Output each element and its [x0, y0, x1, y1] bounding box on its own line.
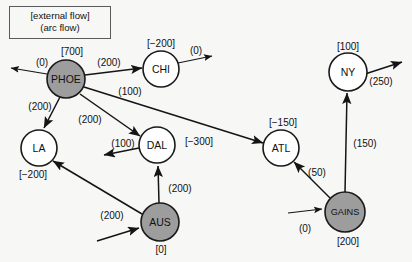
arc-flow-gains-ny: (150)	[353, 138, 376, 149]
arc-flow-external-gains: (0)	[299, 223, 311, 234]
external-flow-la: [−200]	[19, 169, 47, 180]
node-aus-label: AUS	[149, 216, 171, 228]
external-flow-ny: [100]	[337, 41, 359, 52]
node-ny-label: NY	[341, 66, 356, 78]
arc-aus-to-dal	[158, 166, 159, 203]
arc-flow-dal-la: (100)	[111, 138, 134, 149]
node-la-label: LA	[33, 142, 46, 154]
legend-external-flow: [external flow]	[12, 10, 108, 22]
arc-aus-to-la	[53, 161, 142, 214]
arc-phoe-to-chi	[85, 68, 142, 75]
node-chi-label: CHI	[152, 63, 170, 75]
arc-flow-phoe-atl: (100)	[118, 86, 141, 97]
network-flow-diagram: PHOE CHI LA DAL AUS ATL NY GAINS [700] […	[0, 0, 412, 262]
arc-flow-aus-dal: (200)	[168, 183, 191, 194]
external-flow-chi: [−200]	[147, 38, 175, 49]
arc-external-to-gains	[288, 209, 322, 213]
arc-flow-external-aus: (200)	[100, 210, 123, 221]
arc-flow-chi-external: (0)	[190, 45, 202, 56]
arc-flow-phoe-dal: (200)	[78, 114, 101, 125]
legend-arc-flow: (arc flow)	[12, 22, 108, 34]
node-dal-label: DAL	[147, 139, 168, 151]
external-flow-gains: [200]	[337, 236, 359, 247]
arc-gains-to-ny	[345, 93, 347, 192]
arc-external-to-aus	[97, 228, 139, 241]
arc-chi-to-external	[178, 56, 212, 63]
arc-flow-phoe-chi: (200)	[97, 57, 120, 68]
arc-flow-phoe-la: (200)	[28, 101, 51, 112]
legend-box: [external flow] (arc flow)	[9, 6, 111, 39]
arc-flow-gains-atl: (50)	[308, 167, 326, 178]
arc-dal-to-la	[104, 148, 139, 155]
node-atl-label: ATL	[272, 142, 291, 154]
external-flow-phoe: [700]	[61, 46, 83, 57]
arc-flow-phoe-external: (0)	[36, 57, 48, 68]
external-flow-dal: [−300]	[185, 136, 213, 147]
arc-ny-to-external	[365, 62, 402, 74]
diagram-canvas: PHOE CHI LA DAL AUS ATL NY GAINS [700] […	[0, 0, 412, 262]
node-phoe-label: PHOE	[51, 73, 81, 85]
external-flow-atl: [−150]	[269, 117, 297, 128]
external-flow-aus: [0]	[155, 244, 166, 255]
arc-phoe-to-external	[11, 68, 47, 74]
arc-flow-ny-external: (250)	[369, 76, 392, 87]
node-gains-label: GAINS	[331, 207, 360, 217]
